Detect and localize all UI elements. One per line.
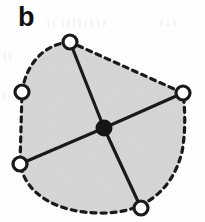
node-top: [63, 35, 77, 49]
node-bottom: [134, 201, 148, 215]
node-lower-left: [13, 157, 27, 171]
node-right: [176, 86, 190, 100]
central-hub: [96, 120, 113, 137]
node-upper-left: [15, 85, 29, 99]
figure-panel-b: b: [0, 0, 205, 222]
node-link-diagram: [0, 0, 205, 222]
